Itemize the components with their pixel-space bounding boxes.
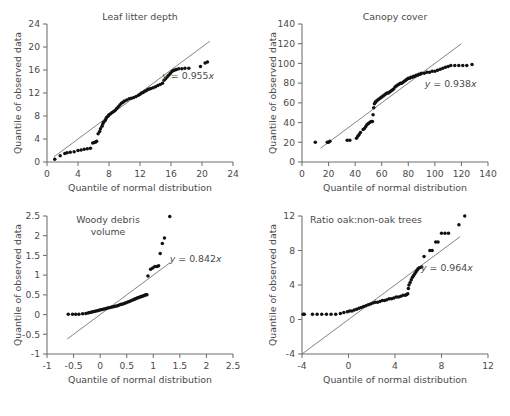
x-tick-label: 8 [106, 168, 112, 179]
data-point [89, 146, 93, 150]
data-point [348, 139, 352, 143]
data-point [65, 151, 69, 155]
data-point [303, 313, 307, 317]
y-tick-label: 0 [289, 156, 295, 167]
x-tick-label: 40 [349, 168, 361, 179]
data-point [328, 140, 332, 144]
data-point [163, 236, 167, 240]
data-point [436, 240, 440, 244]
data-point [443, 232, 447, 236]
y-axis-title: Quantile of observed data [267, 32, 278, 154]
data-point [406, 292, 410, 296]
y-axis-ticks: -1-0.500.511.522.5 [22, 210, 47, 359]
y-tick-label: 4 [34, 133, 40, 144]
data-point [447, 232, 451, 236]
x-tick-label: 140 [479, 168, 497, 179]
x-tick-label: 16 [165, 168, 177, 179]
panel-title: Woody debris [76, 214, 140, 225]
data-point [71, 312, 75, 316]
y-tick-label: 0 [34, 156, 40, 167]
reference-line [302, 237, 460, 354]
chart-leaf-litter-depth: 0481216202404812162024Leaf litter depthy… [0, 4, 255, 200]
y-tick-label: 8 [34, 110, 40, 121]
data-point [449, 64, 453, 68]
x-tick-label: 4 [392, 360, 398, 371]
y-tick-label: 1 [34, 269, 40, 280]
data-point [168, 215, 172, 219]
data-point [199, 65, 203, 69]
data-point [342, 311, 346, 315]
x-tick-label: 60 [376, 168, 388, 179]
y-axis-ticks: 04812162024 [28, 18, 47, 167]
y-axis-title: Quantile of observed data [267, 224, 278, 346]
data-point [422, 255, 426, 259]
data-point [86, 147, 90, 151]
y-tick-label: 2 [34, 230, 40, 241]
y-tick-label: 16 [28, 64, 40, 75]
data-point [311, 313, 315, 317]
data-point [465, 64, 469, 68]
x-tick-label: 12 [482, 360, 494, 371]
data-point [67, 312, 71, 316]
panel-title: Canopy cover [363, 11, 428, 22]
panel-ratio-oak-non-oak-trees: -404812-404812Ratio oak:non-oak treesy =… [255, 196, 510, 392]
data-point [407, 287, 411, 291]
data-point [453, 64, 457, 68]
x-tick-label: -4 [297, 360, 306, 371]
x-axis-ticks: 020406080100120140 [299, 162, 497, 179]
data-points [314, 63, 474, 144]
panel-leaf-litter-depth: 0481216202404812162024Leaf litter depthy… [0, 4, 255, 200]
data-point [440, 232, 444, 236]
data-point [158, 252, 162, 256]
y-tick-label: 80 [283, 77, 295, 88]
y-axis-title: Quantile of observed data [12, 32, 23, 154]
data-point [339, 312, 343, 316]
y-tick-label: 24 [28, 18, 40, 29]
x-tick-label: 2.5 [226, 360, 241, 371]
y-tick-label: 20 [28, 41, 40, 52]
y-tick-label: 12 [28, 87, 40, 98]
data-point [371, 120, 375, 124]
data-point [157, 264, 161, 268]
reference-line [321, 44, 462, 148]
y-tick-label: 2.5 [25, 210, 40, 221]
data-point [146, 274, 150, 278]
y-axis-title: Quantile of observed data [12, 224, 23, 346]
x-tick-label: 0.5 [119, 360, 134, 371]
y-tick-label: -4 [286, 348, 295, 359]
x-tick-label: 0 [97, 360, 103, 371]
data-point [72, 150, 76, 154]
x-tick-label: 12 [134, 168, 146, 179]
x-axis-ticks: -404812 [297, 354, 493, 371]
data-point [206, 60, 210, 64]
data-point [457, 64, 461, 68]
x-axis-title: Quantile of normal distribution [68, 182, 212, 193]
x-tick-label: 1 [150, 360, 156, 371]
data-point [82, 148, 86, 152]
x-axis-title: Quantile of normal distribution [323, 374, 467, 385]
data-point [314, 141, 318, 145]
data-point [77, 312, 81, 316]
data-point [359, 131, 363, 135]
x-tick-label: 100 [426, 168, 444, 179]
panel-title-line2: volume [91, 226, 126, 237]
y-axis-ticks: 020406080100120140 [277, 18, 302, 167]
x-axis-ticks: -1-0.500.511.522.5 [42, 354, 240, 371]
x-tick-label: 80 [402, 168, 414, 179]
reference-line [67, 263, 170, 339]
data-point [58, 154, 62, 158]
data-point [145, 293, 149, 297]
qq-plot-figure: 0481216202404812162024Leaf litter depthy… [0, 0, 510, 416]
x-tick-label: 4 [75, 168, 81, 179]
chart-canopy-cover: 020406080100120140020406080100120140Cano… [255, 4, 510, 200]
data-point [76, 149, 80, 153]
chart-woody-debris-volume: -1-0.500.511.522.5-1-0.500.511.522.5Wood… [0, 196, 255, 392]
x-tick-label: 2 [203, 360, 209, 371]
equation-annotation: y = 0.955x [161, 70, 214, 81]
x-axis-title: Quantile of normal distribution [68, 374, 212, 385]
y-tick-label: 140 [277, 18, 295, 29]
data-point [315, 313, 319, 317]
x-tick-label: 24 [227, 168, 239, 179]
data-point [325, 313, 329, 317]
y-tick-label: 20 [283, 137, 295, 148]
